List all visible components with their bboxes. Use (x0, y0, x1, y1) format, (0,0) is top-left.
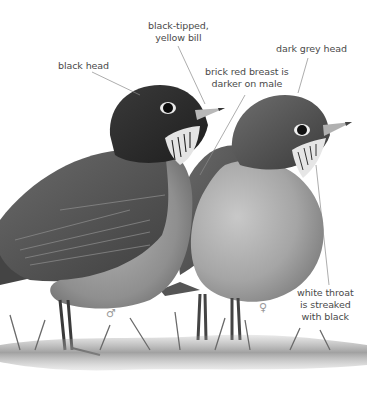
robin-drawing (0, 0, 367, 398)
label-bill-line1: black-tipped, (148, 20, 209, 32)
leader-black-head (92, 72, 140, 95)
label-throat-line1: white throat (297, 287, 354, 299)
label-throat-line3: with black (297, 311, 354, 323)
label-black-head: black head (58, 60, 109, 72)
label-bill-line2: yellow bill (148, 32, 209, 44)
label-throat-line2: is streaked (297, 299, 354, 311)
label-white-throat: white throat is streaked with black (297, 287, 354, 323)
leader-dark-grey-head (298, 58, 308, 93)
label-breast-line2: darker on male (205, 78, 289, 90)
label-dark-grey-head: dark grey head (276, 43, 347, 55)
female-symbol-icon: ♀ (259, 302, 267, 313)
label-breast-line1: brick red breast is (205, 66, 289, 78)
robin-illustration: black head black-tipped, yellow bill dar… (0, 0, 367, 398)
label-breast: brick red breast is darker on male (205, 66, 289, 90)
label-bill: black-tipped, yellow bill (148, 20, 209, 44)
male-symbol-icon: ♂ (106, 308, 116, 319)
